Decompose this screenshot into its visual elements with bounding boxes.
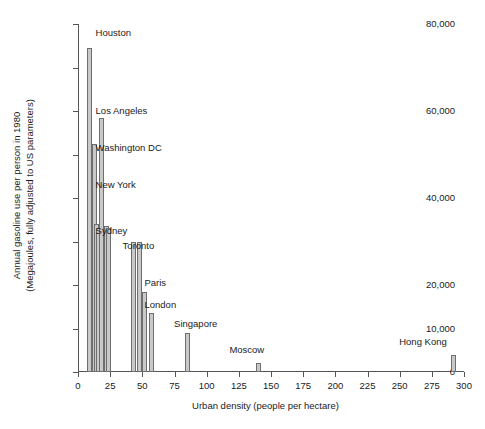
x-tick-100: [207, 372, 208, 377]
annotation-moscow: Moscow: [229, 344, 264, 355]
x-tick-300: [464, 372, 465, 377]
x-tick-label-300: 300: [444, 380, 484, 391]
y-tick-30000: [73, 242, 78, 243]
y-tick-label-80000: 80,000: [426, 18, 455, 29]
annotation-paris: Paris: [144, 277, 166, 288]
y-axis-title: Annual gasoline use per person in 1980 (…: [0, 0, 46, 390]
y-tick-60000: [73, 111, 78, 112]
y-axis-title-line-2: (Megajoules, fully adjusted to US parame…: [23, 99, 36, 292]
x-tick-250: [400, 372, 401, 377]
x-tick-175: [303, 372, 304, 377]
annotation-sydney: Sydney: [96, 225, 128, 236]
y-tick-label-60000: 60,000: [426, 105, 455, 116]
bar-new-york: [106, 228, 111, 372]
x-tick-75: [175, 372, 176, 377]
x-tick-25: [110, 372, 111, 377]
annotation-london: London: [144, 299, 176, 310]
y-tick-40000: [73, 198, 78, 199]
bar-hong-kong: [451, 355, 456, 372]
y-tick-50000: [73, 155, 78, 156]
bar-moscow: [256, 363, 261, 372]
y-tick-20000: [73, 285, 78, 286]
y-axis-title-line-1: Annual gasoline use per person in 1980: [11, 99, 24, 292]
y-tick-80000: [73, 24, 78, 25]
bar-singapore: [185, 333, 190, 372]
chart-figure: Annual gasoline use per person in 1980 (…: [0, 0, 485, 429]
annotation-toronto: Toronto: [123, 240, 155, 251]
bar-sydney: [131, 242, 136, 373]
x-axis-title: Urban density (people per hectare): [46, 400, 485, 411]
y-axis-line: [78, 24, 79, 372]
annotation-new-york: New York: [96, 179, 136, 190]
x-tick-150: [271, 372, 272, 377]
annotation-los-angeles: Los Angeles: [96, 105, 148, 116]
annotation-hong-kong: Hong Kong: [399, 336, 447, 347]
y-tick-70000: [73, 68, 78, 69]
x-tick-225: [368, 372, 369, 377]
bar-london: [149, 313, 154, 372]
y-tick-label-40000: 40,000: [426, 192, 455, 203]
annotation-houston: Houston: [96, 27, 131, 38]
x-tick-125: [239, 372, 240, 377]
x-tick-275: [432, 372, 433, 377]
x-tick-50: [142, 372, 143, 377]
y-tick-label-10000: 10,000: [426, 323, 455, 334]
x-tick-200: [335, 372, 336, 377]
y-tick-label-20000: 20,000: [426, 279, 455, 290]
annotation-washington-dc: Washington DC: [96, 142, 162, 153]
y-tick-10000: [73, 329, 78, 330]
annotation-singapore: Singapore: [174, 318, 217, 329]
plot-area: 010,00020,00040,00060,00080,000 02550751…: [78, 24, 464, 372]
x-tick-0: [78, 372, 79, 377]
